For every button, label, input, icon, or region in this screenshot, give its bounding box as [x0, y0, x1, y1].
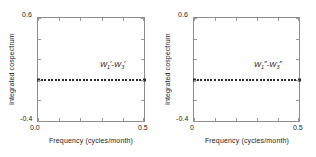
y-tick	[194, 121, 197, 122]
data-point	[104, 79, 106, 81]
x-tick	[102, 118, 103, 121]
x-axis-max-label: 0.5	[293, 124, 303, 131]
data-point	[210, 79, 212, 81]
data-point	[239, 79, 241, 81]
data-point	[242, 79, 244, 81]
plot-frame: W1′-W3′	[37, 17, 145, 122]
y-tick-right	[296, 80, 299, 81]
series-annotation-label: W1′-W3′	[100, 59, 126, 70]
data-point	[214, 79, 216, 81]
data-point	[256, 79, 258, 81]
x-tick	[236, 118, 237, 121]
x-tick	[80, 118, 81, 121]
data-point	[101, 79, 103, 81]
data-point	[267, 79, 269, 81]
data-point	[44, 79, 46, 81]
y-tick	[194, 39, 197, 40]
data-point	[246, 79, 248, 81]
x-tick-top	[236, 18, 237, 21]
data-point	[69, 79, 71, 81]
data-point	[284, 79, 286, 81]
y-tick-right	[296, 100, 299, 101]
data-point	[277, 79, 279, 81]
x-tick	[215, 118, 216, 121]
data-point	[83, 79, 85, 81]
data-point	[108, 79, 110, 81]
x-tick	[194, 118, 195, 121]
y-tick-right	[141, 39, 144, 40]
data-point	[235, 79, 237, 81]
x-tick-top	[278, 18, 279, 21]
x-tick	[278, 118, 279, 121]
x-tick-top	[143, 18, 144, 21]
data-point	[281, 79, 283, 81]
data-point	[79, 79, 81, 81]
annotation-prime-2: ′	[124, 59, 125, 68]
figure-two-panel-cospectrum: 0.6 -0.4 Integrated cospectrum W1′-W3′ 0…	[0, 0, 316, 157]
x-tick	[38, 118, 39, 121]
x-tick	[143, 118, 144, 121]
y-tick	[38, 100, 41, 101]
y-tick	[38, 80, 41, 81]
data-point	[94, 79, 96, 81]
data-point	[72, 79, 74, 81]
data-point	[118, 79, 120, 81]
y-tick	[38, 59, 41, 60]
data-point	[51, 79, 53, 81]
y-tick	[194, 100, 197, 101]
data-point	[115, 79, 117, 81]
x-tick-top	[102, 18, 103, 21]
x-tick-top	[298, 18, 299, 21]
data-point	[111, 79, 113, 81]
series-annotation-label: W1″-W3″	[254, 59, 282, 70]
data-point	[225, 79, 227, 81]
y-tick-right	[296, 59, 299, 60]
data-point	[260, 79, 262, 81]
data-point	[270, 79, 272, 81]
x-tick-top	[59, 18, 60, 21]
plot-panel-right: 0.6 -0.4 Integrated cospectrum W1″-W3″ 0…	[158, 0, 316, 157]
data-point	[218, 79, 220, 81]
x-tick	[298, 118, 299, 121]
y-tick-right	[141, 121, 144, 122]
y-tick-right	[296, 39, 299, 40]
y-axis-title: Integrated cospectrum	[162, 17, 172, 122]
y-axis-max-label: 0.6	[178, 11, 188, 18]
y-tick	[194, 80, 197, 81]
data-point	[221, 79, 223, 81]
x-tick-top	[80, 18, 81, 21]
data-point	[58, 79, 60, 81]
y-axis-min-label: -0.4	[176, 115, 188, 122]
y-tick-right	[296, 121, 299, 122]
x-tick-top	[123, 18, 124, 21]
y-tick-right	[141, 80, 144, 81]
data-point	[65, 79, 67, 81]
annotation-prime-2: ″	[279, 59, 282, 68]
y-axis-max-label: 0.6	[22, 11, 32, 18]
data-point	[55, 79, 57, 81]
x-tick	[123, 118, 124, 121]
data-point	[249, 79, 251, 81]
data-point	[231, 79, 233, 81]
x-axis-title: Frequency (cycles/month)	[158, 137, 316, 144]
plot-panel-left: 0.6 -0.4 Integrated cospectrum W1′-W3′ 0…	[0, 0, 158, 157]
x-tick	[59, 118, 60, 121]
data-point	[200, 79, 202, 81]
data-point	[62, 79, 64, 81]
data-point	[132, 79, 134, 81]
data-point	[204, 79, 206, 81]
y-tick-right	[141, 100, 144, 101]
data-point	[125, 79, 127, 81]
data-point	[263, 79, 265, 81]
x-tick-top	[215, 18, 216, 21]
data-point	[252, 79, 254, 81]
y-tick	[38, 121, 41, 122]
data-point	[288, 79, 290, 81]
y-tick	[194, 59, 197, 60]
data-point	[86, 79, 88, 81]
x-axis-max-label: 0.5	[138, 124, 148, 131]
data-point	[122, 79, 124, 81]
data-point	[291, 79, 293, 81]
data-point	[228, 79, 230, 81]
plot-frame: W1″-W3″	[193, 17, 300, 122]
